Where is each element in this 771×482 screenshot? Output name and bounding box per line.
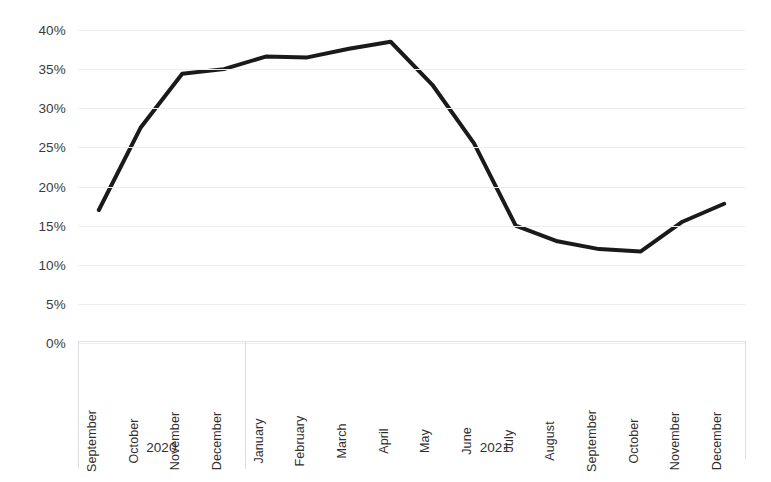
y-axis-tick-label: 10% xyxy=(38,257,66,272)
year-group-label: 2021 xyxy=(480,440,510,455)
gridline xyxy=(78,265,745,266)
y-axis-tick-label: 35% xyxy=(38,62,66,77)
gridline xyxy=(78,226,745,227)
y-axis-tick-label: 40% xyxy=(38,23,66,38)
y-axis-tick-label: 5% xyxy=(46,296,66,311)
gridline xyxy=(78,147,745,148)
line-chart: 40%35%30%25%20%15%10%5%0% SeptemberOctob… xyxy=(0,0,771,482)
category-axis-rule xyxy=(78,341,745,342)
y-axis-tick-label: 20% xyxy=(38,179,66,194)
year-group-axis: 20202021 xyxy=(78,440,745,470)
y-axis-tick-label: 30% xyxy=(38,101,66,116)
y-axis-tick-label: 15% xyxy=(38,218,66,233)
gridline xyxy=(78,187,745,188)
gridline xyxy=(78,69,745,70)
gridline xyxy=(78,304,745,305)
gridline xyxy=(78,108,745,109)
year-group-label: 2020 xyxy=(146,440,176,455)
year-group-divider xyxy=(745,341,746,459)
plot-area xyxy=(78,30,745,343)
y-axis: 40%35%30%25%20%15%10%5%0% xyxy=(0,0,72,482)
y-axis-tick-label: 25% xyxy=(38,140,66,155)
gridline xyxy=(78,30,745,31)
y-axis-tick-label: 0% xyxy=(46,336,66,351)
